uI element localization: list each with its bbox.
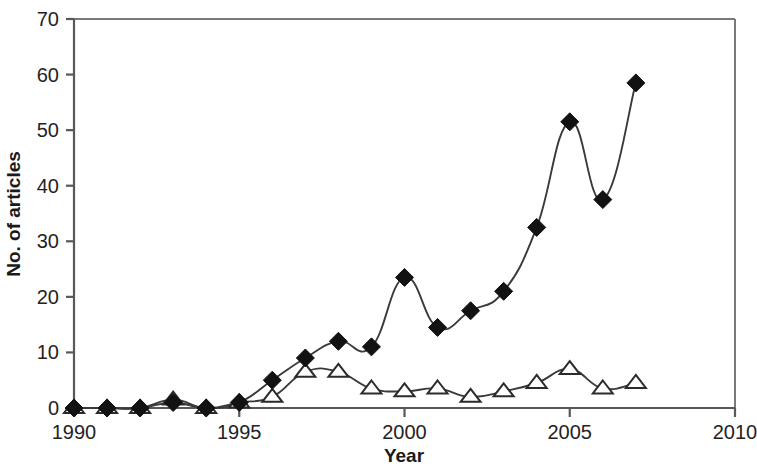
data-point-marker <box>262 389 282 402</box>
x-tick-label: 2010 <box>713 421 757 443</box>
data-point-marker <box>395 383 415 396</box>
y-tick-label: 60 <box>37 64 59 86</box>
y-tick-label: 10 <box>37 341 59 363</box>
data-point-marker <box>594 191 612 209</box>
y-tick-label: 70 <box>37 8 59 30</box>
x-tick-label: 2000 <box>382 421 427 443</box>
chart-figure: 010203040506070 19901995200020052010 Yea… <box>0 0 757 470</box>
x-axis-label: Year <box>384 445 425 466</box>
y-tick-label: 40 <box>37 175 59 197</box>
data-point-marker <box>263 371 281 389</box>
data-point-marker <box>296 349 314 367</box>
data-series-layer <box>64 74 646 417</box>
data-point-marker <box>627 74 645 92</box>
data-point-marker <box>361 380 381 393</box>
series-line <box>74 368 636 408</box>
data-point-marker <box>527 375 547 388</box>
x-tick-label: 1995 <box>217 421 262 443</box>
data-point-marker <box>329 332 347 350</box>
y-tick-label: 20 <box>37 286 59 308</box>
data-point-marker <box>98 399 116 417</box>
y-tick-label: 30 <box>37 230 59 252</box>
series-open-triangle-series <box>74 368 636 408</box>
x-tick-label: 2005 <box>548 421 593 443</box>
data-point-marker <box>65 399 83 417</box>
series-filled-diamond-series <box>74 83 636 409</box>
series-line <box>74 83 636 409</box>
data-point-marker <box>428 380 448 393</box>
data-point-marker <box>626 375 646 388</box>
markers-filled-diamond-series <box>65 74 645 417</box>
data-point-marker <box>131 399 149 417</box>
y-axis-ticks: 010203040506070 <box>37 8 74 419</box>
data-point-marker <box>528 218 546 236</box>
x-tick-label: 1990 <box>52 421 97 443</box>
y-tick-label: 0 <box>48 397 59 419</box>
data-point-marker <box>462 302 480 320</box>
y-tick-label: 50 <box>37 119 59 141</box>
y-axis-label: No. of articles <box>3 151 24 277</box>
data-point-marker <box>560 361 580 374</box>
data-point-marker <box>593 380 613 393</box>
line-chart: 010203040506070 19901995200020052010 Yea… <box>0 0 757 470</box>
data-point-marker <box>197 399 215 417</box>
x-axis-ticks: 19901995200020052010 <box>52 408 757 443</box>
data-point-marker <box>362 338 380 356</box>
